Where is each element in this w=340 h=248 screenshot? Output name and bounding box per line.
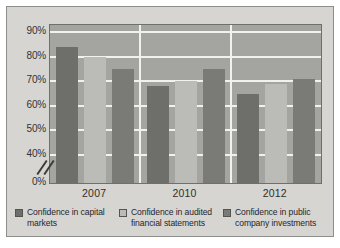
bar-2007-series-1 xyxy=(56,47,78,183)
legend-label: Confidence in capitalmarkets xyxy=(27,207,105,228)
y-axis-tick-labels: 0%40%50%60%70%80%90% xyxy=(7,7,49,193)
gridline-vertical xyxy=(139,25,141,183)
gridline-horizontal xyxy=(50,31,321,33)
y-axis-tick-40: 40% xyxy=(27,149,46,159)
legend-item-2[interactable]: Confidence in auditedfinancial statement… xyxy=(119,207,223,235)
bar-2010-series-1 xyxy=(147,86,169,183)
legend-label: Confidence in auditedfinancial statement… xyxy=(131,207,212,228)
chart-figure: 0%40%50%60%70%80%90% 200720102012 Confid… xyxy=(6,6,334,237)
legend-item-3[interactable]: Confidence in publiccompany investments xyxy=(223,207,327,235)
gridline-vertical xyxy=(230,25,232,183)
x-axis-label-2010: 2010 xyxy=(139,187,229,199)
y-axis-tick-80: 80% xyxy=(27,51,46,61)
bar-2012-series-3 xyxy=(293,79,315,183)
bar-2010-series-2 xyxy=(175,81,197,183)
x-axis-label-2012: 2012 xyxy=(230,187,320,199)
legend-swatch-icon xyxy=(223,209,231,217)
legend-item-1[interactable]: Confidence in capitalmarkets xyxy=(15,207,119,235)
bar-2010-series-3 xyxy=(203,69,225,183)
bar-2007-series-2 xyxy=(84,57,106,183)
bar-2012-series-1 xyxy=(237,94,259,184)
y-axis-tick-70: 70% xyxy=(27,75,46,85)
chart-legend: Confidence in capitalmarketsConfidence i… xyxy=(15,207,327,235)
y-axis-tick-90: 90% xyxy=(27,26,46,36)
x-axis-label-2007: 2007 xyxy=(49,187,139,199)
y-axis-tick-60: 60% xyxy=(27,100,46,110)
x-axis-category-labels: 200720102012 xyxy=(49,187,322,203)
legend-label: Confidence in publiccompany investments xyxy=(235,207,316,228)
legend-swatch-icon xyxy=(119,209,127,217)
bar-2007-series-3 xyxy=(112,69,134,183)
bar-2012-series-2 xyxy=(265,84,287,183)
y-axis-tick-50: 50% xyxy=(27,124,46,134)
y-axis-tick-0: 0% xyxy=(32,177,46,187)
plot-wrapper: 0%40%50%60%70%80%90% xyxy=(7,7,335,193)
plot-area xyxy=(49,24,322,184)
legend-swatch-icon xyxy=(15,209,23,217)
